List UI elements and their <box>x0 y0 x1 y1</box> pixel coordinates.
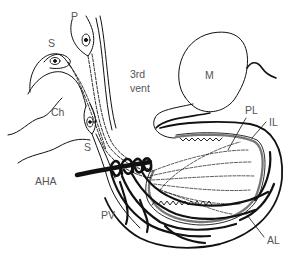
mammillary-tail <box>247 63 276 78</box>
label-pv: PV <box>101 210 115 221</box>
al-leader <box>247 215 264 237</box>
chiasm-outline <box>28 72 86 106</box>
aha-contour <box>18 139 90 163</box>
third-ventricle-floor <box>154 104 193 138</box>
label-s-lower: S <box>84 142 91 153</box>
label-ch: Ch <box>51 107 64 118</box>
pars-intermedia-zigzag-top <box>180 138 222 141</box>
label-aha: AHA <box>35 176 57 187</box>
label-3rd: 3rd <box>130 69 145 80</box>
label-pl: PL <box>245 105 258 116</box>
label-m: M <box>205 70 214 81</box>
label-vent: vent <box>130 83 150 94</box>
infundibular-stalk-upper <box>156 113 210 128</box>
label-al: AL <box>267 235 280 246</box>
label-s-top: S <box>48 38 55 49</box>
tract-outer-line-1 <box>96 18 112 130</box>
diagram-drawing <box>0 0 294 270</box>
pituitary-diagram: P S Ch 3rd vent M S PL IL AHA PV AL <box>0 0 294 270</box>
p-neuron-body <box>71 16 94 56</box>
label-p: P <box>71 11 78 22</box>
label-il: IL <box>269 117 278 128</box>
